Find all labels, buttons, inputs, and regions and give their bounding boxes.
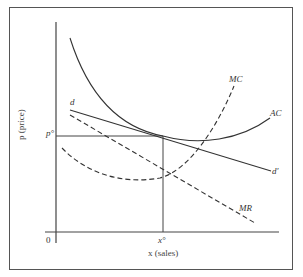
- origin-label: 0: [46, 235, 51, 245]
- mr-label: MR: [239, 203, 252, 213]
- ac-curve: [70, 38, 270, 141]
- demand-line: [70, 110, 271, 171]
- y-axis-label: p (price): [16, 109, 26, 140]
- d-label: d: [70, 97, 75, 107]
- d-prime-label: d′: [272, 166, 278, 176]
- ac-label: AC: [270, 108, 282, 118]
- mc-label: MC: [229, 74, 243, 84]
- x-axis-label: x (sales): [148, 248, 178, 258]
- x-star-label: x°: [158, 235, 166, 245]
- p-star-label: p°: [46, 128, 54, 138]
- mc-curve: [62, 86, 234, 180]
